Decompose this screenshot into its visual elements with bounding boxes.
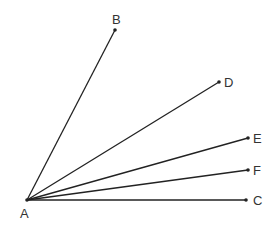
segment-ae (27, 138, 248, 200)
label-d: D (224, 75, 233, 90)
segment-af (27, 170, 248, 200)
points-group (25, 28, 250, 202)
segment-ab (27, 30, 115, 200)
rays-diagram: ABDEFC (0, 0, 278, 230)
point-b (113, 28, 117, 32)
label-e: E (253, 131, 262, 146)
label-f: F (253, 163, 261, 178)
point-a (25, 198, 29, 202)
segments-group (27, 30, 248, 200)
labels-group: ABDEFC (20, 12, 262, 221)
segment-ad (27, 82, 219, 200)
label-b: B (112, 12, 121, 27)
point-d (217, 80, 221, 84)
point-f (246, 168, 250, 172)
label-a: A (20, 206, 29, 221)
point-e (246, 136, 250, 140)
point-c (244, 198, 248, 202)
label-c: C (253, 193, 262, 208)
